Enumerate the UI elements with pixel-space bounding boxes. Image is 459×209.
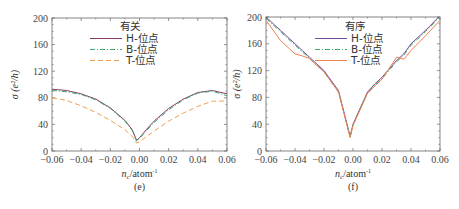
- y-tick-label: 0: [43, 146, 48, 157]
- chart-panel-e: −0.06−0.04−0.020.000.020.040.06040801201…: [9, 13, 236, 194]
- y-tick-label: 40: [252, 119, 262, 130]
- y-tick-label: 0: [257, 146, 262, 157]
- legend-label: T-位点: [350, 54, 380, 66]
- x-axis-label: nc/atom-1: [122, 168, 158, 181]
- y-tick-label: 120: [247, 65, 262, 76]
- y-axis-label: σ (e²/h): [231, 69, 243, 99]
- series-line-t-site: [52, 98, 227, 143]
- y-tick-label: 160: [33, 39, 48, 50]
- x-tick-label: 0.00: [131, 154, 149, 165]
- x-tick-label: −0.02: [312, 154, 335, 165]
- x-tick-label: 0.04: [189, 154, 207, 165]
- panel-label: (f): [348, 181, 358, 193]
- panel-label: (e): [134, 181, 145, 193]
- x-tick-label: −0.04: [70, 154, 93, 165]
- x-tick-label: 0.06: [218, 154, 236, 165]
- x-tick-label: −0.04: [283, 154, 306, 165]
- y-tick-label: 200: [247, 12, 262, 23]
- figure-canvas: −0.06−0.04−0.020.000.020.040.06040801201…: [0, 0, 459, 209]
- x-tick-label: 0.02: [373, 154, 391, 165]
- x-tick-label: 0.02: [160, 154, 178, 165]
- y-tick-label: 160: [247, 38, 262, 49]
- series-line-h-site: [52, 89, 227, 140]
- y-tick-label: 40: [38, 119, 48, 130]
- x-tick-label: 0.04: [402, 154, 420, 165]
- x-tick-label: 0.06: [431, 154, 449, 165]
- x-tick-label: −0.02: [99, 154, 122, 165]
- legend-label: T-位点: [125, 54, 155, 66]
- y-tick-label: 120: [33, 66, 48, 77]
- y-tick-label: 80: [252, 92, 262, 103]
- series-line-b-site: [52, 91, 227, 142]
- legend-title: 有序: [345, 20, 365, 32]
- y-axis-label: σ (e²/h): [9, 69, 21, 99]
- y-tick-label: 80: [38, 92, 48, 103]
- x-axis-label: nc/atom-1: [335, 168, 371, 181]
- x-tick-label: 0.00: [344, 154, 362, 165]
- chart-panel-f: −0.06−0.04−0.020.000.020.040.06040801201…: [231, 12, 449, 194]
- legend-title: 有关: [120, 20, 141, 32]
- y-tick-label: 200: [33, 13, 48, 24]
